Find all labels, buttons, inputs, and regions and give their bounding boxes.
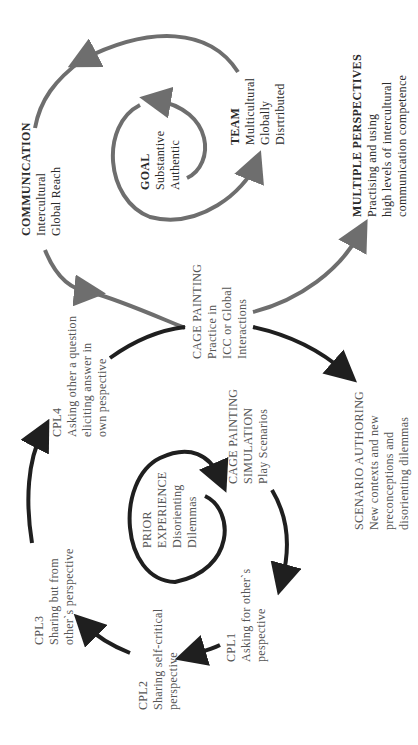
node-cage-painting: CAGE PAINTING Practice in ICC or Global … [190, 264, 250, 359]
scenario-authoring-line: New contexts and new [367, 391, 382, 530]
node-goal: GOAL Substantive Authentic [138, 131, 183, 190]
arrow-simulation-to-cpl1 [272, 490, 287, 580]
prior-line: Disorienting [170, 472, 185, 548]
cpl1-title: CPL1 [224, 569, 239, 662]
cpl2-title: CPL2 [136, 609, 151, 710]
multiple-perspectives-title: MULTIPLE PERSPECTIVES [350, 54, 365, 217]
node-scenario-authoring: SCENARIO AUTHORING New contexts and new … [352, 391, 412, 530]
cpl3-line: other`s perspective [62, 548, 77, 645]
scenario-authoring-line: disorienting dilemmas [397, 391, 412, 530]
arrow-communication-to-cage [45, 250, 90, 292]
cpl4-line: Asking other a question [65, 316, 80, 437]
team-line: Disrtributed [273, 78, 288, 145]
cpl4-line: eliciting answer in [80, 316, 95, 437]
prior-line: Dilemmas [185, 472, 200, 548]
cpl1-line: Asking for other`s [239, 569, 254, 662]
node-communication: COMMUNICATION Intercultural Global Reach [19, 122, 64, 236]
arrow-cage-to-scenario [253, 327, 345, 372]
cpl3-title: CPL3 [32, 548, 47, 645]
goal-line: Authentic [168, 131, 183, 190]
goal-title: GOAL [138, 131, 153, 190]
arrow-cpl1-to-cpl2 [190, 645, 220, 655]
cpl3-line: Sharing but from [47, 548, 62, 645]
communication-title: COMMUNICATION [19, 122, 34, 236]
node-multiple-perspectives: MULTIPLE PERSPECTIVES Practising and usi… [350, 54, 410, 217]
goal-line: Substantive [153, 131, 168, 190]
simulation-title-2: SIMULATION [241, 389, 256, 484]
cpl4-title: CPL4 [50, 316, 65, 437]
team-line: Multicultural [243, 78, 258, 145]
arrow-cage-to-multiple [253, 233, 360, 312]
node-cpl4: CPL4 Asking other a question eliciting a… [50, 316, 110, 437]
cpl2-line: Sharing self-critical [151, 609, 166, 710]
prior-title-2: EXPERIENCE [155, 472, 170, 548]
team-line: Globally [258, 78, 273, 145]
simulation-title-1: CAGE PAINTING [226, 389, 241, 484]
arrow-top-to-communication [35, 60, 82, 128]
node-cage-painting-simulation: CAGE PAINTING SIMULATION Play Scenarios [226, 389, 271, 484]
scenario-authoring-title: SCENARIO AUTHORING [352, 391, 367, 530]
arrow-cpl2-to-cpl3 [85, 625, 130, 653]
cpl1-line: pespective [254, 569, 269, 662]
cage-painting-line: Interactions [235, 264, 250, 359]
simulation-line: Play Scenarios [256, 389, 271, 484]
prior-title-1: PRIOR [140, 472, 155, 548]
node-cpl3: CPL3 Sharing but from other`s perspectiv… [32, 548, 77, 645]
communication-line: Intercultural [34, 122, 49, 236]
scenario-authoring-line: preconceptions and [382, 391, 397, 530]
cage-painting-line: ICC or Global [220, 264, 235, 359]
node-cpl2: CPL2 Sharing self-critical perspective [136, 609, 181, 710]
communication-line: Global Reach [49, 122, 64, 236]
node-cpl1: CPL1 Asking for other`s pespective [224, 569, 269, 662]
node-prior-experience: PRIOR EXPERIENCE Disorienting Dilemmas [140, 472, 200, 548]
multiple-perspectives-line: communication competence [395, 54, 410, 217]
cpl2-line: perspective [166, 609, 181, 710]
arrow-cpl4-to-cage [110, 327, 185, 358]
cage-painting-line: Practice in [205, 264, 220, 359]
multiple-perspectives-line: Practising and using [365, 54, 380, 217]
cage-painting-title: CAGE PAINTING [190, 264, 205, 359]
node-team: TEAM Multicultural Globally Disrtributed [228, 78, 288, 145]
multiple-perspectives-line: high levels of intercultural [380, 54, 395, 217]
arrow-team-to-top [82, 36, 238, 72]
cpl4-line: own pespective [95, 316, 110, 437]
arrow-cpl3-to-cpl4 [28, 433, 42, 543]
team-title: TEAM [228, 78, 243, 145]
